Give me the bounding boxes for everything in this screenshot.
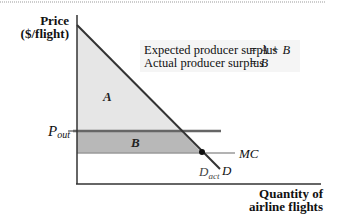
- legend-expected-value: = A + B: [249, 43, 290, 57]
- legend-actual-value: = B: [249, 56, 269, 70]
- region-b-label: B: [130, 135, 140, 150]
- dact-point: [199, 149, 205, 155]
- legend-actual-label: Actual producer surplus: [144, 56, 264, 70]
- y-axis-label-line2: ($/flight): [21, 26, 69, 41]
- demand-label: D: [221, 163, 232, 178]
- mc-label: MC: [238, 146, 259, 161]
- chart-canvas: Price ($/flight) Quantity of airline fli…: [0, 0, 342, 218]
- x-axis-label-line2: airline flights: [249, 199, 323, 214]
- region-a-label: A: [102, 89, 112, 104]
- pout-label: Pout: [47, 123, 70, 140]
